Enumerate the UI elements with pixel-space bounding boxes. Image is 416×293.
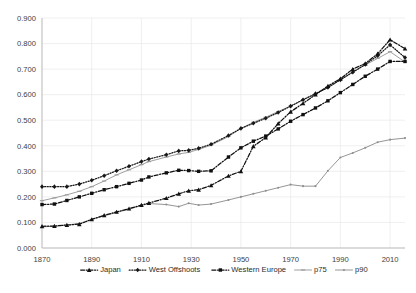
data-point-marker: [364, 75, 367, 78]
series-line: [42, 40, 405, 227]
data-point-marker: [388, 60, 391, 63]
series-japan: [40, 38, 408, 229]
series-p90: [41, 137, 406, 228]
data-point-marker: [90, 178, 94, 183]
x-tick-label: 1990: [332, 255, 349, 264]
data-point-marker: [388, 38, 393, 42]
data-point-marker: [198, 204, 200, 206]
data-point-marker: [389, 139, 391, 141]
data-point-marker: [102, 180, 106, 181]
x-tick-label: 1910: [133, 255, 150, 264]
data-point-marker: [65, 199, 68, 202]
data-point-marker: [147, 157, 151, 162]
data-point-marker: [65, 194, 69, 195]
legend-item-p75[interactable]: p75: [295, 265, 327, 274]
data-point-marker: [364, 147, 366, 149]
data-point-marker: [327, 170, 329, 172]
data-point-marker: [136, 268, 140, 273]
data-point-marker: [240, 196, 242, 198]
data-point-marker: [177, 169, 180, 172]
data-point-marker: [177, 149, 181, 154]
data-point-marker: [127, 169, 131, 170]
y-tick-label: 0.000: [17, 244, 36, 253]
data-point-marker: [377, 141, 379, 143]
chart-legend: JapanWest OffshootsWestern Europep75p90: [81, 265, 368, 274]
data-point-marker: [302, 185, 304, 187]
data-point-marker: [239, 126, 243, 131]
data-point-marker: [78, 195, 81, 198]
data-point-marker: [352, 152, 354, 154]
series-line: [42, 61, 405, 204]
line-chart: 0.0000.1000.2000.3000.4000.5000.6000.700…: [0, 0, 416, 293]
x-tick-label: 1890: [83, 255, 100, 264]
data-point-marker: [376, 67, 379, 70]
y-tick-label: 0.900: [17, 14, 36, 23]
data-point-marker: [301, 269, 305, 270]
data-point-marker: [210, 203, 212, 205]
data-point-marker: [90, 192, 93, 195]
y-tick-label: 0.700: [17, 65, 36, 74]
data-point-marker: [276, 127, 279, 130]
data-point-marker: [197, 170, 200, 173]
data-point-marker: [403, 60, 406, 63]
data-point-marker: [139, 159, 143, 164]
data-point-marker: [77, 182, 81, 187]
gridlines: [42, 18, 405, 248]
y-axis-tick-labels: 0.0000.1000.2000.3000.4000.5000.6000.700…: [17, 14, 36, 253]
axis-lines: [42, 18, 405, 248]
y-tick-label: 0.600: [17, 90, 36, 99]
data-point-marker: [339, 156, 341, 158]
data-point-marker: [53, 202, 56, 205]
y-tick-label: 0.400: [17, 142, 36, 151]
x-tick-label: 1930: [183, 255, 200, 264]
x-tick-label: 2010: [382, 255, 399, 264]
data-point-marker: [127, 182, 130, 185]
legend-item-west-offshoots[interactable]: West Offshoots: [129, 265, 200, 274]
legend-label: Japan: [100, 265, 121, 274]
legend-label: West Offshoots: [149, 265, 201, 274]
data-point-marker: [209, 183, 214, 187]
data-point-marker: [388, 51, 392, 52]
data-point-marker: [289, 104, 293, 109]
data-point-marker: [326, 99, 329, 102]
legend-item-western-europe[interactable]: Western Europe: [212, 265, 286, 274]
data-point-marker: [102, 173, 106, 178]
x-axis-tick-labels: 18701890191019301950197019902010: [34, 255, 399, 264]
data-point-marker: [127, 164, 131, 169]
y-tick-label: 0.200: [17, 193, 36, 202]
data-point-marker: [219, 268, 222, 271]
series-western-europe: [40, 60, 406, 207]
x-tick-label: 1970: [282, 255, 299, 264]
series-west-offshoots: [40, 43, 407, 189]
data-point-marker: [277, 187, 279, 189]
data-point-marker: [40, 203, 43, 206]
legend-label: p90: [355, 265, 368, 274]
data-point-marker: [301, 113, 304, 116]
data-point-marker: [115, 185, 118, 188]
legend-label: Western Europe: [231, 265, 286, 274]
data-point-marker: [77, 191, 81, 192]
data-point-marker: [178, 206, 180, 208]
data-point-marker: [239, 146, 242, 149]
data-point-marker: [40, 200, 44, 201]
data-point-marker: [314, 106, 317, 109]
data-point-marker: [165, 171, 168, 174]
chart-plot-area: 0.0000.1000.2000.3000.4000.5000.6000.700…: [0, 0, 416, 293]
data-point-marker: [265, 190, 267, 192]
legend-item-japan[interactable]: Japan: [81, 265, 121, 274]
data-point-marker: [339, 91, 342, 94]
data-point-marker: [289, 120, 292, 123]
legend-item-p90[interactable]: p90: [335, 265, 367, 274]
data-point-marker: [102, 188, 105, 191]
data-point-marker: [188, 202, 190, 204]
data-point-marker: [314, 185, 316, 187]
data-point-marker: [252, 193, 254, 195]
data-point-marker: [187, 169, 190, 172]
data-point-marker: [40, 184, 44, 189]
x-tick-label: 1870: [34, 255, 51, 264]
y-tick-label: 0.500: [17, 116, 36, 125]
data-point-marker: [343, 269, 345, 271]
data-point-marker: [165, 204, 167, 206]
data-point-marker: [177, 153, 181, 154]
data-point-marker: [114, 174, 118, 175]
